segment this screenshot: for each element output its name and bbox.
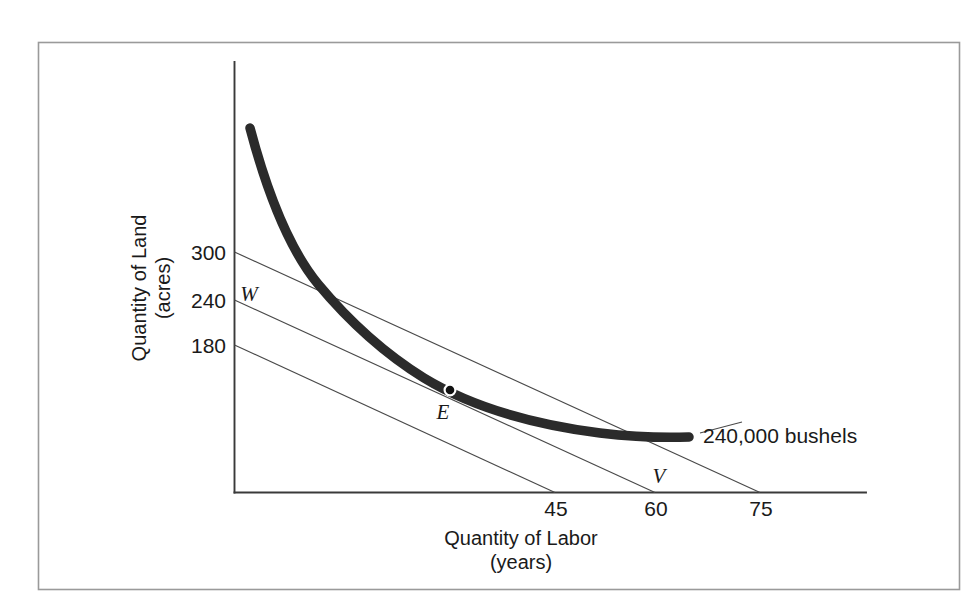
x-tick-label-45: 45 xyxy=(544,497,567,520)
x-tick-label-60: 60 xyxy=(644,497,667,520)
y-tick-label-180: 180 xyxy=(191,334,226,357)
label-point-v: V xyxy=(653,464,668,488)
figure-container: 300 240 180 45 60 75 W V E 240,000 bushe… xyxy=(0,0,980,614)
y-axis-units: (acres) xyxy=(152,257,174,319)
isoquant-value-label: 240,000 bushels xyxy=(703,424,857,447)
y-axis-title-group: Quantity of Land xyxy=(128,215,150,362)
x-axis-units: (years) xyxy=(490,551,552,573)
x-axis-title: Quantity of Labor xyxy=(444,527,598,549)
x-tick-label-75: 75 xyxy=(749,497,772,520)
figure-frame xyxy=(39,43,960,590)
label-point-w: W xyxy=(240,282,260,306)
y-axis-units-group: (acres) xyxy=(152,257,174,319)
label-point-e: E xyxy=(436,400,450,424)
y-tick-label-240: 240 xyxy=(191,289,226,312)
y-axis-title: Quantity of Land xyxy=(128,215,150,362)
tangency-point-e-dot xyxy=(445,385,456,396)
y-tick-label-300: 300 xyxy=(191,241,226,264)
isoquant-isocost-chart: 300 240 180 45 60 75 W V E 240,000 bushe… xyxy=(0,0,980,614)
